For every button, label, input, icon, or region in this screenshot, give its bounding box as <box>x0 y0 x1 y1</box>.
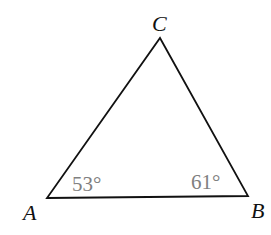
angle-label-b: 61° <box>191 170 220 194</box>
vertex-label-a: A <box>21 200 37 225</box>
angle-label-a: 53° <box>72 172 101 196</box>
triangle-diagram: C A B 53° 61° <box>0 0 271 235</box>
vertex-label-b: B <box>251 198 264 223</box>
vertex-label-c: C <box>152 11 167 36</box>
